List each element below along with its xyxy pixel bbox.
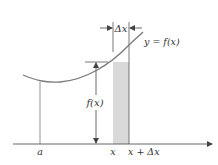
axis-label-x: x: [110, 146, 116, 157]
diagram-canvas: Δx y = f(x) f(x) a x x + Δx: [0, 0, 218, 165]
diagram-svg: Δx y = f(x) f(x) a x x + Δx: [0, 0, 218, 165]
axis-label-x-plus-dx: x + Δx: [128, 146, 160, 157]
axis-label-a: a: [37, 146, 43, 157]
curve-label: y = f(x): [143, 36, 180, 47]
dx-label: Δx: [114, 23, 128, 34]
area-strip: [113, 62, 129, 144]
fx-label: f(x): [85, 97, 103, 108]
